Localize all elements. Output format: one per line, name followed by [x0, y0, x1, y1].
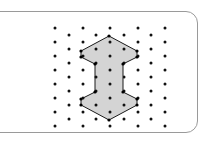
grid-dot	[164, 97, 167, 100]
polygon-vertex-marker	[79, 97, 82, 100]
polygon-vertex-marker	[135, 103, 138, 106]
grid-dot	[123, 34, 126, 37]
grid-dot	[95, 104, 98, 107]
grid-dot	[164, 55, 167, 58]
grid-dot	[137, 111, 140, 114]
polygon-vertex-marker	[79, 103, 82, 106]
grid-dot	[123, 48, 126, 51]
grid-dot	[109, 83, 112, 86]
polygon-vertex-marker	[121, 90, 124, 93]
grid-dot	[109, 125, 112, 128]
grid-dot	[82, 69, 85, 72]
grid-dot	[150, 62, 153, 65]
grid-dot	[54, 69, 57, 72]
screenshot-root	[0, 0, 212, 141]
grid-dot	[150, 90, 153, 93]
grid-dot	[109, 111, 112, 114]
grid-dot	[95, 76, 98, 79]
grid-dot	[95, 48, 98, 51]
grid-dot	[164, 69, 167, 72]
grid-dot	[95, 118, 98, 121]
grid-dot	[109, 97, 112, 100]
grid-dot	[82, 27, 85, 30]
polygon-vertex-marker	[135, 49, 138, 52]
grid-dot	[137, 27, 140, 30]
grid-dot	[54, 27, 57, 30]
grid-dot	[137, 69, 140, 72]
grid-dot	[137, 125, 140, 128]
grid-dot	[109, 27, 112, 30]
figure-canvas	[0, 0, 212, 141]
grid-dot	[164, 41, 167, 44]
grid-dot	[68, 62, 71, 65]
grid-dot	[137, 83, 140, 86]
polygon-vertex-marker	[93, 90, 96, 93]
grid-dot	[68, 48, 71, 51]
grid-dot	[54, 83, 57, 86]
grid-dot	[82, 111, 85, 114]
polygon-vertex-marker	[135, 97, 138, 100]
grid-dot	[150, 104, 153, 107]
grid-dot	[109, 69, 112, 72]
grid-dot	[68, 90, 71, 93]
grid-dot	[54, 111, 57, 114]
grid-dot	[150, 34, 153, 37]
grid-dot	[164, 125, 167, 128]
grid-dot	[54, 41, 57, 44]
grid-dot	[82, 125, 85, 128]
grid-dot	[164, 83, 167, 86]
grid-dot	[54, 125, 57, 128]
grid-dot	[150, 118, 153, 121]
grid-dot	[137, 41, 140, 44]
grid-dot	[54, 55, 57, 58]
i-beam-polygon-path	[81, 36, 137, 120]
polygon-vertex-marker	[79, 55, 82, 58]
grid-dot	[150, 76, 153, 79]
grid-dot	[82, 41, 85, 44]
i-beam-polygon	[81, 36, 137, 120]
grid-dot	[68, 76, 71, 79]
grid-dot	[109, 41, 112, 44]
grid-dot	[68, 104, 71, 107]
grid-dot	[164, 27, 167, 30]
grid-dot	[164, 111, 167, 114]
grid-dot	[95, 34, 98, 37]
grid-dot	[82, 83, 85, 86]
polygon-vertex-marker	[135, 55, 138, 58]
polygon-vertex-marker	[121, 62, 124, 65]
grid-dot	[123, 118, 126, 121]
grid-dot	[54, 97, 57, 100]
polygon-vertex-marker	[79, 49, 82, 52]
polygon-vertex-marker	[107, 34, 110, 37]
grid-dot	[123, 104, 126, 107]
polygon-vertex-marker	[93, 62, 96, 65]
grid-dot	[150, 48, 153, 51]
grid-dot	[109, 55, 112, 58]
grid-dot	[68, 118, 71, 121]
polygon-vertex-marker	[107, 118, 110, 121]
grid-dot	[68, 34, 71, 37]
